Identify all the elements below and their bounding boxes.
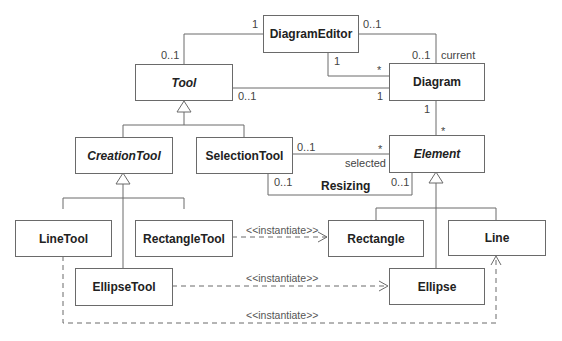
class-label: RectangleTool bbox=[143, 232, 225, 246]
mult-tool-diagram-tool: 0..1 bbox=[238, 90, 256, 102]
mult-resizing-element: 0..1 bbox=[391, 176, 409, 188]
class-line[interactable]: Line bbox=[448, 220, 546, 256]
class-label: Rectangle bbox=[347, 232, 404, 246]
mult-editor-current-editor: 0..1 bbox=[363, 18, 381, 30]
mult-editor-diagrams-diagram: * bbox=[377, 64, 381, 76]
assoc-name-resizing: Resizing bbox=[321, 180, 370, 192]
mult-editor-current-diagram: 0..1 bbox=[412, 49, 430, 61]
class-creation-tool[interactable]: CreationTool bbox=[75, 137, 173, 174]
class-tool[interactable]: Tool bbox=[135, 64, 233, 101]
gen-arrow-creationtool bbox=[116, 173, 130, 184]
mult-editor-diagrams-editor: 1 bbox=[334, 55, 340, 67]
assoc-editor-tool bbox=[184, 34, 263, 64]
stereotype-instantiate-ellipse: <<instantiate>> bbox=[246, 272, 318, 284]
class-label: SelectionTool bbox=[206, 149, 284, 163]
gen-tool-tree bbox=[123, 125, 244, 137]
role-current: current bbox=[441, 49, 475, 61]
class-rectangle[interactable]: Rectangle bbox=[328, 220, 424, 257]
gen-arrow-tool bbox=[177, 101, 191, 112]
stereotype-instantiate-rectangle: <<instantiate>> bbox=[246, 224, 318, 236]
class-label: DiagramEditor bbox=[270, 27, 353, 41]
mult-selection-element-sel: 0..1 bbox=[297, 141, 315, 153]
mult-diagram-element-element: * bbox=[441, 125, 445, 137]
mult-editor-tool-tool: 0..1 bbox=[161, 49, 179, 61]
class-label: Element bbox=[414, 147, 461, 161]
mult-resizing-sel: 0..1 bbox=[274, 176, 292, 188]
class-element[interactable]: Element bbox=[389, 135, 485, 173]
class-selection-tool[interactable]: SelectionTool bbox=[196, 137, 293, 174]
class-label: CreationTool bbox=[87, 149, 161, 163]
class-diagram-editor[interactable]: DiagramEditor bbox=[263, 15, 359, 53]
class-ellipse-tool[interactable]: EllipseTool bbox=[75, 268, 173, 306]
class-rectangle-tool[interactable]: RectangleTool bbox=[135, 220, 233, 257]
class-label: Tool bbox=[172, 76, 197, 90]
role-selected: selected bbox=[345, 157, 386, 169]
gen-arrow-element bbox=[429, 172, 443, 183]
class-label: LineTool bbox=[39, 232, 88, 246]
class-label: Line bbox=[485, 231, 510, 245]
stereotype-instantiate-line: <<instantiate>> bbox=[246, 309, 318, 321]
mult-editor-tool-editor: 1 bbox=[252, 18, 258, 30]
class-label: Diagram bbox=[413, 75, 461, 89]
mult-selection-element-element: * bbox=[378, 143, 382, 155]
mult-tool-diagram-diagram: 1 bbox=[377, 90, 383, 102]
class-label: EllipseTool bbox=[92, 280, 155, 294]
class-label: Ellipse bbox=[418, 280, 457, 294]
class-line-tool[interactable]: LineTool bbox=[15, 220, 112, 257]
mult-diagram-element-diagram: 1 bbox=[424, 103, 430, 115]
class-diagram[interactable]: Diagram bbox=[389, 63, 485, 101]
class-ellipse[interactable]: Ellipse bbox=[389, 268, 485, 305]
